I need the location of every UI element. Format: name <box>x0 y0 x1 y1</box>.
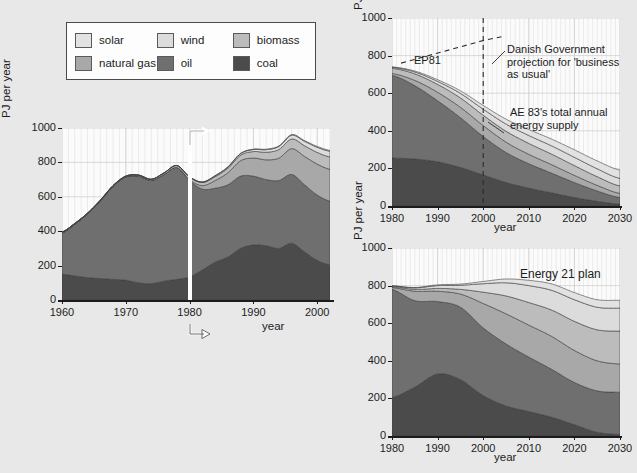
main-chart-x-axis-title: year <box>262 320 284 332</box>
y-tick-label-600: 600 <box>346 317 386 328</box>
x-tick <box>392 436 393 440</box>
main-chart-y-axis-title: PJ per year <box>0 0 12 118</box>
y-tick <box>388 361 392 362</box>
marker-arrow-top-icon <box>188 125 214 147</box>
x-tick-label-1980: 1980 <box>368 213 416 224</box>
danish-energy-history-chart: PJ per year year 02004006008001000196019… <box>0 118 345 333</box>
legend-label-solar: solar <box>99 35 124 47</box>
swatch-wind-icon <box>157 33 174 48</box>
x-tick-label-2030: 2030 <box>596 213 637 224</box>
x-tick <box>529 206 530 210</box>
legend-item-oil: oil <box>157 56 233 71</box>
y-tick-label-600: 600 <box>16 191 56 202</box>
x-tick <box>574 206 575 210</box>
swatch-coal-icon <box>233 56 250 71</box>
y-tick <box>388 93 392 94</box>
legend-row-2: natural gas oil coal <box>75 52 307 75</box>
energy21-y-axis-title: PJ per year <box>352 0 364 240</box>
y-tick <box>388 18 392 19</box>
legend-row-1: solar wind biomass <box>75 29 307 52</box>
x-tick <box>483 436 484 440</box>
x-tick-label-2010: 2010 <box>505 443 553 454</box>
legend-item-biomass: biomass <box>233 33 307 48</box>
x-tick <box>126 300 127 304</box>
marker-arrow-bottom-icon <box>188 322 214 342</box>
legend-item-natural-gas: natural gas <box>75 56 157 71</box>
x-tick <box>483 206 484 210</box>
y-tick <box>388 131 392 132</box>
x-tick <box>529 436 530 440</box>
energy21-x-axis <box>388 436 622 438</box>
legend-label-wind: wind <box>181 35 205 47</box>
y-tick-label-800: 800 <box>16 156 56 167</box>
y-tick <box>58 266 62 267</box>
y-tick-label-200: 200 <box>16 260 56 271</box>
y-tick-label-0: 0 <box>346 430 386 441</box>
x-tick-label-2020: 2020 <box>550 213 598 224</box>
ae83-total-supply-label: AE 83's total annual energy supply <box>510 106 608 131</box>
y-tick <box>388 56 392 57</box>
x-tick <box>62 300 63 304</box>
y-tick <box>388 286 392 287</box>
y-tick <box>58 231 62 232</box>
x-tick-label-2010: 2010 <box>505 213 553 224</box>
x-tick-label-1980: 1980 <box>166 307 214 318</box>
business-as-usual-label: Danish Government projection for 'busine… <box>507 43 619 81</box>
ep81-label: EP81 <box>414 54 441 67</box>
legend-label-biomass: biomass <box>257 35 300 47</box>
x-tick <box>438 206 439 210</box>
y-tick <box>58 162 62 163</box>
swatch-solar-icon <box>75 33 92 48</box>
main-chart-plot-area <box>62 128 330 300</box>
x-tick <box>392 206 393 210</box>
main_chart-svg <box>62 128 330 300</box>
legend-label-coal: coal <box>257 58 278 70</box>
x-tick <box>620 206 621 210</box>
x-tick <box>620 436 621 440</box>
x-tick <box>574 436 575 440</box>
x-tick <box>438 436 439 440</box>
y-tick <box>388 398 392 399</box>
legend-item-solar: solar <box>75 33 157 48</box>
y-tick <box>388 323 392 324</box>
swatch-biomass-icon <box>233 33 250 48</box>
y-tick-label-400: 400 <box>346 355 386 366</box>
main-chart-x-axis <box>58 300 334 302</box>
x-tick-label-1970: 1970 <box>102 307 150 318</box>
x-tick-label-1960: 1960 <box>38 307 86 318</box>
swatch-oil-icon <box>157 56 174 71</box>
y-tick <box>58 128 62 129</box>
y-tick-label-1000: 1000 <box>16 122 56 133</box>
1980-marker-line <box>188 130 192 300</box>
energy-21-plan-chart: PJ per year year 02004006008001000198019… <box>352 240 631 470</box>
y-tick-label-0: 0 <box>16 294 56 305</box>
x-tick-label-2020: 2020 <box>550 443 598 454</box>
y-tick <box>388 248 392 249</box>
x-tick-label-2030: 2030 <box>596 443 637 454</box>
x-tick-label-1990: 1990 <box>414 213 462 224</box>
ae83-scenario-chart: PJ per year year 02004006008001000198019… <box>352 10 631 232</box>
energy-21-plan-label: Energy 21 plan <box>520 268 601 281</box>
x-tick-label-1990: 1990 <box>414 443 462 454</box>
energy-source-legend: solar wind biomass natural gas oil <box>66 22 316 80</box>
y-tick-label-200: 200 <box>346 392 386 403</box>
y-tick-label-800: 800 <box>346 280 386 291</box>
x-tick <box>190 300 191 304</box>
y-tick <box>388 168 392 169</box>
x-tick <box>317 300 318 304</box>
legend-label-natural-gas: natural gas <box>99 58 156 70</box>
swatch-natural-gas-icon <box>75 56 92 71</box>
legend-label-oil: oil <box>181 58 193 70</box>
x-tick-label-1980: 1980 <box>368 443 416 454</box>
legend-item-coal: coal <box>233 56 307 71</box>
y-tick <box>58 197 62 198</box>
x-tick-label-2000: 2000 <box>293 307 341 318</box>
x-tick-label-2000: 2000 <box>459 213 507 224</box>
x-tick-label-1990: 1990 <box>229 307 277 318</box>
y-tick-label-1000: 1000 <box>346 242 386 253</box>
legend-item-wind: wind <box>157 33 233 48</box>
y-tick-label-400: 400 <box>16 225 56 236</box>
x-tick-label-2000: 2000 <box>459 443 507 454</box>
ae83-x-axis <box>388 206 622 208</box>
